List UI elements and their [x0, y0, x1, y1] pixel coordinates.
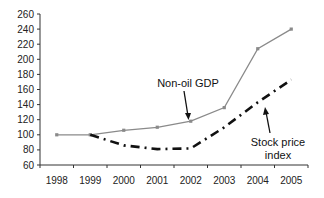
x-tick-label: 1999 — [79, 175, 102, 186]
x-tick-label: 1998 — [46, 175, 69, 186]
y-tick-label: 240 — [17, 24, 34, 35]
gdp-arrow-icon — [184, 91, 188, 116]
stock-annotation-label-2: index — [265, 149, 292, 161]
x-tick-label: 2003 — [213, 175, 236, 186]
stock-arrow-icon — [266, 112, 270, 133]
data-point-marker — [256, 47, 259, 50]
stock-arrowhead-icon — [263, 107, 269, 115]
y-tick-label: 260 — [17, 9, 34, 20]
y-tick-label: 60 — [23, 160, 35, 171]
gdp-annotation-label: Non-oil GDP — [157, 77, 219, 89]
y-tick-label: 180 — [17, 69, 34, 80]
y-tick-label: 100 — [17, 129, 34, 140]
y-tick-label: 160 — [17, 84, 34, 95]
line-chart: 6080100120140160180200220240260199819992… — [0, 0, 324, 198]
y-tick-label: 200 — [17, 54, 34, 65]
data-point-marker — [290, 28, 293, 31]
y-tick-label: 140 — [17, 99, 34, 110]
x-tick-label: 2004 — [247, 175, 270, 186]
stock-annotation-label-1: Stock price — [251, 136, 305, 148]
x-tick-label: 2000 — [113, 175, 136, 186]
y-tick-label: 80 — [23, 144, 35, 155]
gdp-arrowhead-icon — [185, 113, 191, 120]
x-tick-label: 2001 — [146, 175, 169, 186]
data-point-marker — [122, 129, 125, 132]
x-tick-label: 2005 — [280, 175, 303, 186]
data-point-marker — [156, 126, 159, 129]
y-tick-label: 120 — [17, 114, 34, 125]
data-point-marker — [223, 106, 226, 109]
data-point-marker — [189, 120, 192, 123]
y-tick-label: 220 — [17, 39, 34, 50]
data-point-marker — [55, 133, 58, 136]
x-tick-label: 2002 — [180, 175, 203, 186]
